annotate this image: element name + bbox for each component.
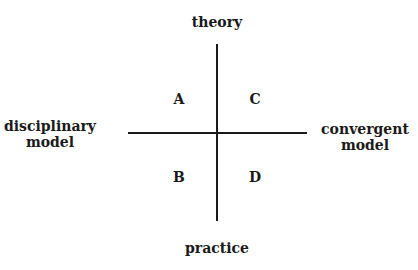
quadrant-label-d: D	[245, 169, 265, 185]
quadrant-label-c: C	[245, 91, 265, 107]
axis-label-bottom: practice	[167, 240, 267, 256]
axis-label-left: disciplinary model	[0, 118, 100, 150]
axis-label-top: theory	[177, 14, 257, 30]
axis-label-right: convergent model	[318, 121, 412, 153]
horizontal-axis	[128, 132, 307, 134]
axis-label-right-line1: convergent	[318, 121, 412, 137]
axis-label-left-line1: disciplinary	[0, 118, 100, 134]
axis-label-left-line2: model	[0, 134, 100, 150]
quadrant-label-a: A	[169, 91, 189, 107]
quadrant-label-b: B	[169, 169, 189, 185]
axis-label-right-line2: model	[318, 137, 412, 153]
